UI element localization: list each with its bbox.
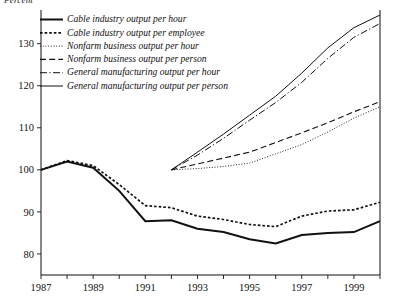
legend-label-1: Cable industry output per employee xyxy=(67,27,205,38)
y-tick-label: 130 xyxy=(18,38,34,49)
y-tick-label: 110 xyxy=(19,122,34,133)
line-chart-plot: 8090100110120130 19871989199119931995199… xyxy=(0,0,420,307)
y-tick-label: 90 xyxy=(24,207,35,218)
series-line-1 xyxy=(41,161,380,227)
x-tick-label: 1987 xyxy=(31,282,52,293)
y-tick-label: 120 xyxy=(18,80,34,91)
series-line-0 xyxy=(41,161,380,243)
x-tick-label: 1993 xyxy=(187,282,208,293)
chart-figure: Percent 8090100110120130 198719891991199… xyxy=(0,0,420,307)
x-tick-label: 1989 xyxy=(83,282,104,293)
series-line-5 xyxy=(171,15,380,170)
chart-legend: Cable industry output per hourCable indu… xyxy=(40,13,228,91)
legend-label-2: Nonfarm business output per hour xyxy=(66,40,199,51)
y-tick-label: 80 xyxy=(24,249,35,260)
series-line-2 xyxy=(171,107,380,170)
legend-label-0: Cable industry output per hour xyxy=(67,13,187,24)
x-tick-label: 1991 xyxy=(135,282,156,293)
legend-label-3: Nonfarm business output per person xyxy=(66,53,207,64)
y-axis-tick-group: 8090100110120130 xyxy=(18,38,41,259)
x-tick-label: 1995 xyxy=(239,282,260,293)
x-tick-label: 1999 xyxy=(343,282,364,293)
series-line-3 xyxy=(171,102,380,170)
legend-label-5: General manufacturing output per person xyxy=(67,80,228,91)
x-tick-label: 1997 xyxy=(291,282,312,293)
legend-label-4: General manufacturing output per hour xyxy=(67,66,220,77)
y-tick-label: 100 xyxy=(18,164,34,175)
x-axis-tick-group: 1987198919911993199519971999 xyxy=(31,275,381,293)
